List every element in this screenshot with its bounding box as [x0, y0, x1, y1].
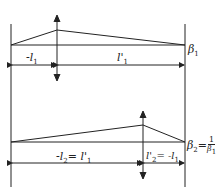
bottom-left-length-label: -l2= l'1 [56, 151, 91, 165]
top-lens-arrow-up-icon [54, 15, 60, 22]
bottom-magnification-label: β2=1β1 [187, 136, 216, 156]
bottom-ray-path [11, 125, 185, 142]
bottom-lens-arrow-up-icon [140, 111, 146, 118]
top-lens-arrow-down-icon [54, 74, 60, 81]
bottom-right-length-label: l'2= -l1 [146, 151, 179, 164]
bottom-lens-arrow-down-icon [140, 172, 146, 179]
inverse-fraction: 1β1 [207, 136, 216, 156]
top-left-length-label: -l1 [26, 52, 38, 66]
top-right-length-label: l'1 [117, 52, 128, 66]
optics-diagram [0, 0, 224, 187]
top-ray-path [11, 30, 185, 45]
top-magnification-label: β1 [188, 44, 199, 58]
